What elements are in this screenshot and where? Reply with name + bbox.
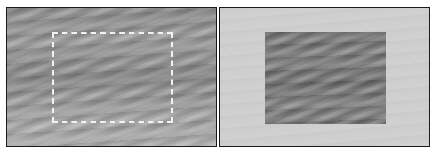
selected-texture-region bbox=[265, 32, 386, 124]
original-texture-panel bbox=[6, 7, 217, 147]
selection-marquee[interactable] bbox=[52, 32, 173, 123]
selected-texture-image bbox=[265, 32, 386, 124]
selection-result-panel bbox=[219, 7, 430, 147]
